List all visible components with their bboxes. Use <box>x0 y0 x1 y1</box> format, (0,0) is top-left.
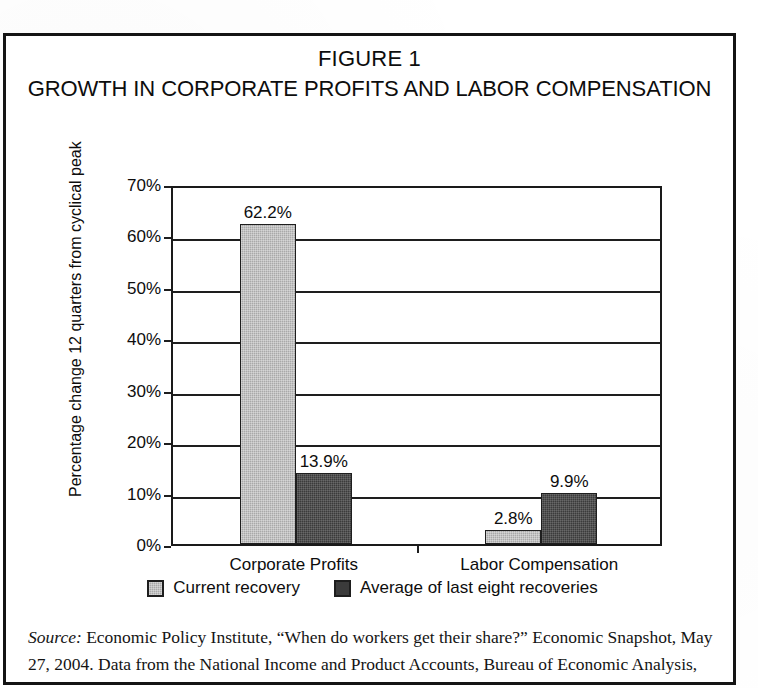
y-axis-tick-mark <box>164 289 171 291</box>
source-note: Source: Economic Policy Institute, “When… <box>28 624 720 678</box>
y-axis-tick-mark <box>164 392 171 394</box>
bar-current-recovery <box>240 224 296 544</box>
legend-item[interactable]: Current recovery <box>147 578 300 598</box>
source-text-1: Economic Policy Institute, “When do work… <box>82 627 713 647</box>
bar-value-label: 9.9% <box>550 472 589 492</box>
bar-current-recovery <box>485 530 541 544</box>
y-axis-tick-label: 0% <box>103 536 161 556</box>
y-axis-tick-label: 50% <box>103 279 161 299</box>
figure-title: GROWTH IN CORPORATE PROFITS AND LABOR CO… <box>6 74 733 104</box>
y-axis-tick-mark <box>164 340 171 342</box>
x-axis-category-label: Labor Compensation <box>460 555 618 575</box>
bar-value-label: 2.8% <box>494 509 533 529</box>
x-axis-category-label: Corporate Profits <box>230 555 359 575</box>
legend-swatch-icon <box>334 580 351 597</box>
y-axis-tick-label: 20% <box>103 433 161 453</box>
bar-chart: Percentage change 12 quarters from cycli… <box>6 118 739 618</box>
bar-value-label: 62.2% <box>244 203 292 223</box>
figure-number: FIGURE 1 <box>6 44 733 74</box>
bar-average-recoveries <box>296 473 352 544</box>
legend-label: Average of last eight recoveries <box>360 578 598 598</box>
figure-title-block: FIGURE 1 GROWTH IN CORPORATE PROFITS AND… <box>6 44 733 104</box>
source-label: Source: <box>28 627 82 647</box>
y-axis-tick-label: 30% <box>103 382 161 402</box>
legend-item[interactable]: Average of last eight recoveries <box>334 578 598 598</box>
y-axis-tick-mark <box>164 495 171 497</box>
y-axis-title: Percentage change 12 quarters from cycli… <box>67 157 85 497</box>
y-axis-tick-label: 10% <box>103 485 161 505</box>
bar-value-label: 13.9% <box>300 452 348 472</box>
y-axis-tick-label: 40% <box>103 330 161 350</box>
source-line-1: Source: Economic Policy Institute, “When… <box>28 624 720 651</box>
legend-swatch-icon <box>147 580 164 597</box>
plot-area: 62.2%13.9%2.8%9.9% <box>171 186 662 546</box>
x-axis-tick-mark <box>417 546 419 553</box>
y-axis-tick-mark <box>164 237 171 239</box>
y-axis-tick-label: 60% <box>103 227 161 247</box>
figure-box: FIGURE 1 GROWTH IN CORPORATE PROFITS AND… <box>3 33 736 685</box>
y-axis-tick-mark <box>164 443 171 445</box>
legend-label: Current recovery <box>173 578 300 598</box>
y-axis-tick-mark <box>164 546 171 548</box>
y-axis-tick-mark <box>164 186 171 188</box>
chart-legend: Current recoveryAverage of last eight re… <box>6 578 739 598</box>
y-axis-tick-label: 70% <box>103 176 161 196</box>
bar-average-recoveries <box>541 493 597 544</box>
source-line-2: 27, 2004. Data from the National Income … <box>28 651 720 678</box>
